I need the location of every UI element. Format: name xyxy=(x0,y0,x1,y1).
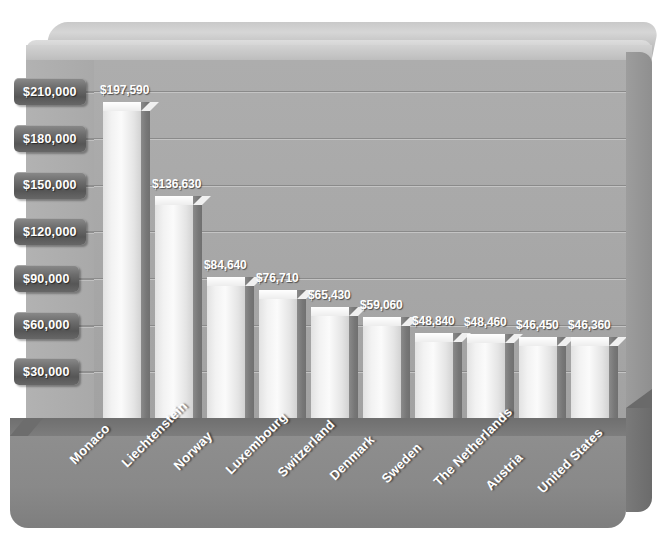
bar[interactable] xyxy=(571,346,609,418)
bar-value-label: $46,450 xyxy=(516,318,559,332)
bar-top-face xyxy=(311,307,349,316)
bar-value-label: $197,590 xyxy=(100,83,149,97)
base-right-face xyxy=(626,408,652,512)
bar-value-label: $48,460 xyxy=(464,315,507,329)
bar[interactable] xyxy=(363,326,401,418)
bar-top-face xyxy=(363,317,401,326)
bar[interactable] xyxy=(155,205,193,418)
bar[interactable] xyxy=(467,343,505,418)
bar[interactable] xyxy=(311,316,349,418)
bar-value-label: $84,640 xyxy=(204,258,247,272)
bar-top-face xyxy=(207,277,245,286)
bar[interactable] xyxy=(259,299,297,418)
bar-value-label: $65,430 xyxy=(308,288,351,302)
bar-value-label: $76,710 xyxy=(256,271,299,285)
y-axis-label-tab: $180,000 xyxy=(14,125,86,152)
bar-chart: $30,000$60,000$90,000$120,000$150,000$18… xyxy=(0,0,667,542)
bar-side-face xyxy=(297,290,306,418)
y-axis-label-tab: $60,000 xyxy=(14,312,79,339)
bar-side-face xyxy=(349,307,358,418)
bar[interactable] xyxy=(103,111,141,418)
y-axis-label-tab: $30,000 xyxy=(14,358,79,385)
y-axis-label-tab: $90,000 xyxy=(14,265,79,292)
bar[interactable] xyxy=(415,342,453,418)
gridline xyxy=(94,138,626,139)
bar-side-face xyxy=(401,317,410,418)
bar-value-label: $46,360 xyxy=(568,318,611,332)
bar-top-face xyxy=(571,337,609,346)
gridline xyxy=(94,91,626,92)
bar-side-face xyxy=(557,337,566,418)
bar-side-face xyxy=(193,196,202,418)
bar-side-face xyxy=(609,337,618,418)
bar[interactable] xyxy=(207,286,245,418)
base-front-face xyxy=(10,436,626,528)
bar-top-face xyxy=(103,102,141,111)
bar-side-face xyxy=(453,333,462,418)
bar-top-face xyxy=(467,334,505,343)
y-axis-label-tab: $210,000 xyxy=(14,78,86,105)
bar-value-label: $136,630 xyxy=(152,177,201,191)
bar-top-face xyxy=(415,333,453,342)
bar[interactable] xyxy=(519,346,557,418)
bar-top-face xyxy=(155,196,193,205)
bar-value-label: $59,060 xyxy=(360,298,403,312)
plot-area xyxy=(26,60,626,418)
bar-side-face xyxy=(245,277,254,418)
bar-top-face xyxy=(519,337,557,346)
y-axis-label-tab: $120,000 xyxy=(14,218,86,245)
plot-right-edge xyxy=(626,52,652,408)
bar-top-face xyxy=(259,290,297,299)
y-axis-label-tab: $150,000 xyxy=(14,172,86,199)
bar-side-face xyxy=(141,102,150,418)
bar-value-label: $48,840 xyxy=(412,314,455,328)
